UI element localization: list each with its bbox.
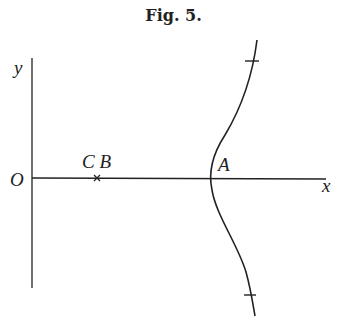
x-axis-label: x	[321, 175, 331, 196]
x-axis-line	[32, 178, 326, 179]
diagram-canvas: y O x C B A	[0, 0, 347, 329]
point-cb-label: C B	[82, 151, 111, 172]
point-a-label: A	[216, 154, 230, 175]
origin-label: O	[10, 169, 24, 190]
y-axis-label: y	[12, 57, 23, 78]
